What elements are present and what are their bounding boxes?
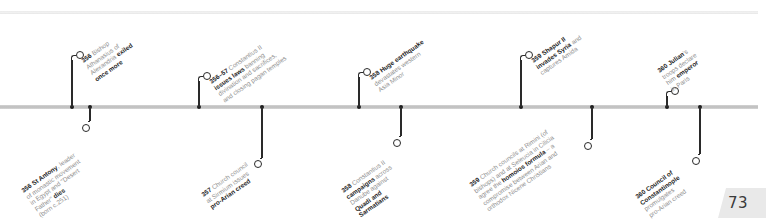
- event-marker-ring: [584, 142, 592, 150]
- event-connector-elbow: [590, 139, 592, 140]
- event-label-above-356–57: 356–57 Constantius IIissues laws banning…: [208, 35, 288, 103]
- event-connector-stem: [71, 60, 72, 107]
- event-connector-elbow: [399, 136, 401, 137]
- event-connector-stem: [89, 107, 90, 121]
- event-connector-elbow: [88, 121, 90, 122]
- event-label-above-358: 358 Huge earthquakedevastates westernAsi…: [368, 38, 434, 94]
- event-label-below-356: 356 St Antony, leaderof monastic movemen…: [20, 151, 94, 219]
- event-label-below-358: 358 Constantius IIcampaigns acrossDanube…: [340, 157, 406, 219]
- page-number: 73: [728, 194, 748, 212]
- event-marker-ring: [393, 139, 401, 147]
- event-connector-stem: [699, 107, 700, 154]
- event-connector-elbow: [260, 158, 262, 159]
- event-connector-elbow: [698, 154, 700, 155]
- page-top-rule: [0, 11, 758, 14]
- event-label-above-360: 360 Julian'stroops declarehim emperorin …: [656, 45, 707, 93]
- event-label-above-359: 359 Shapur IIinvades Syria andcaptures A…: [530, 27, 587, 76]
- event-marker-ring: [254, 160, 262, 168]
- page-number-tab: 73: [718, 188, 766, 218]
- event-label-below-357: 357 Church councilat Sirmium issuespro-A…: [200, 161, 258, 211]
- event-connector-stem: [400, 107, 401, 136]
- event-connector-stem: [358, 77, 359, 107]
- event-connector-stem: [520, 60, 521, 107]
- event-label-above-356: 356 BishopAthanasius ofAlexandria exiled…: [80, 29, 138, 83]
- event-label-below-360: 360 Council ofConstantinoplepromulgatesp…: [634, 167, 690, 219]
- event-label-below-359: 359 Church councils at Rimini (ofbishops…: [468, 127, 568, 213]
- event-connector-stem: [591, 107, 592, 139]
- event-connector-stem: [198, 81, 199, 107]
- event-marker-ring: [82, 124, 90, 132]
- event-marker-ring: [692, 157, 700, 165]
- timeline-bar: [0, 105, 758, 109]
- event-connector-stem: [261, 107, 262, 158]
